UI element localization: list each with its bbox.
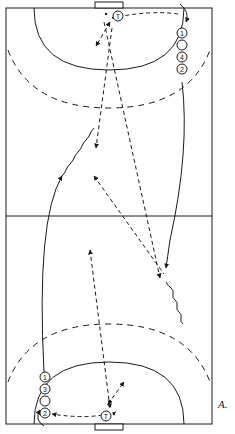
bottom-player-queue: 1 3 2 bbox=[40, 372, 50, 418]
pass-line bbox=[90, 250, 110, 408]
court-diagram: T T 1 4 2 1 3 2 A. bbox=[0, 0, 235, 434]
svg-text:2: 2 bbox=[180, 66, 184, 73]
pass-line bbox=[96, 22, 110, 46]
bottom-goalkeeper: T bbox=[101, 411, 111, 421]
svg-text:3: 3 bbox=[43, 386, 47, 393]
run-line bbox=[42, 176, 62, 372]
figure-label: A. bbox=[217, 398, 227, 410]
svg-text:T: T bbox=[116, 13, 121, 20]
top-goal-area-line bbox=[34, 8, 184, 70]
svg-text:1: 1 bbox=[180, 30, 184, 37]
dribble-line bbox=[166, 282, 183, 324]
pass-line bbox=[94, 176, 164, 274]
ball-icon bbox=[105, 13, 107, 15]
svg-text:4: 4 bbox=[180, 54, 184, 61]
svg-text:1: 1 bbox=[43, 374, 47, 381]
top-player-queue: 1 4 2 bbox=[177, 28, 187, 74]
svg-text:2: 2 bbox=[43, 410, 47, 417]
top-goal bbox=[95, 2, 123, 8]
run-line bbox=[166, 82, 184, 268]
pass-line bbox=[108, 382, 124, 404]
bottom-free-throw-line bbox=[8, 324, 210, 382]
top-goalkeeper: T bbox=[113, 11, 123, 21]
bottom-goal bbox=[95, 424, 123, 430]
ball-icon bbox=[113, 413, 115, 415]
pass-line bbox=[104, 22, 160, 278]
svg-text:T: T bbox=[104, 413, 109, 420]
dribble-line bbox=[62, 128, 94, 176]
